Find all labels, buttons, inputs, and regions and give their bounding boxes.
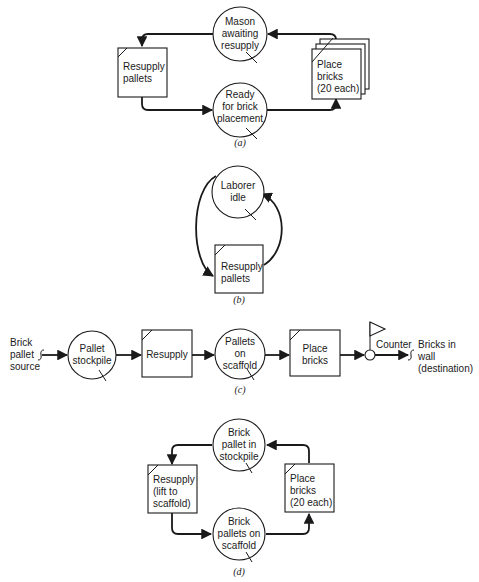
edge-place-to-stockpile: [267, 445, 309, 463]
panel-caption: (d): [233, 566, 245, 578]
node-label-line: Mason: [225, 16, 255, 27]
edge-resupply-to-scaffold: [172, 513, 211, 534]
panel-a: Mason awaiting resupply Ready for brick …: [118, 7, 369, 149]
node-label-line: pallets on: [218, 528, 261, 539]
node-label-line: Place: [290, 473, 315, 484]
node-label-line: Brick: [228, 427, 251, 438]
queue-pallets-on-scaffold: Pallets on scaffold: [215, 329, 265, 380]
node-label-line: bricks: [290, 485, 316, 496]
cyclone-diagram-figure: Mason awaiting resupply Ready for brick …: [0, 0, 479, 582]
node-label-line: Place: [317, 59, 342, 70]
activity-resupply: Resupply: [142, 330, 192, 377]
activity-place-bricks: Place bricks: [290, 330, 340, 376]
panel-caption: (c): [234, 384, 246, 396]
queue-ready-for-brick-placement: Ready for brick placement: [213, 83, 267, 139]
node-label-line: scaffold: [223, 360, 257, 371]
node-label-line: Resupply: [146, 349, 188, 360]
edge-mason-to-resupply: [142, 34, 213, 46]
node-label-line: pallet: [10, 349, 34, 360]
counter-flag-icon: [370, 322, 385, 336]
node-label-line: Resupply: [123, 61, 165, 72]
activity-resupply-pallets: Resupply pallets: [215, 245, 263, 293]
sink-squiggle-icon: [408, 350, 414, 360]
node-label-line: Resupply: [221, 261, 263, 272]
edge-scaffold-to-place: [266, 514, 309, 534]
node-label-line: Counter: [376, 339, 412, 350]
node-label-line: Brick: [228, 516, 251, 527]
node-label-line: (lift to: [153, 486, 178, 497]
panel-d: Brick pallet in stockpile Resupply (lift…: [148, 419, 334, 578]
sink-bricks-in-wall: Bricks in wall (destination): [408, 339, 473, 374]
node-label-line: Ready: [226, 89, 255, 100]
node-label-line: bricks: [302, 355, 328, 366]
node-label-line: scaffold: [222, 540, 256, 551]
node-label-line: resupply: [221, 40, 259, 51]
node-label-line: on: [234, 348, 245, 359]
node-label-line: Pallets: [225, 336, 255, 347]
node-label-line: source: [10, 361, 40, 372]
queue-brick-pallets-on-scaffold: Brick pallets on scaffold: [213, 508, 265, 562]
source-brick-pallet: Brick pallet source: [10, 337, 44, 372]
node-label-line: Place: [302, 343, 327, 354]
node-label-line: Pallet: [79, 343, 104, 354]
node-label-line: Brick: [10, 337, 33, 348]
panel-caption: (b): [233, 294, 245, 306]
node-label-line: (destination): [418, 363, 473, 374]
queue-pallet-stockpile: Pallet stockpile: [68, 331, 116, 381]
node-label-line: pallet in: [222, 439, 256, 450]
activity-place-bricks-stacked: Place bricks (20 each): [312, 38, 369, 99]
edge-ready-to-place: [267, 99, 336, 110]
node-label-line: Bricks in: [418, 339, 456, 350]
node-label-line: placement: [217, 113, 263, 124]
node-label-line: stockpile: [220, 451, 259, 462]
node-label-line: Laborer: [221, 180, 256, 191]
node-label-line: wall: [417, 351, 435, 362]
edge-stockpile-to-resupply: [172, 445, 212, 464]
node-label-line: idle: [230, 192, 246, 203]
panel-c: Brick pallet source Pallet stockpile Res…: [10, 322, 473, 396]
activity-place-bricks: Place bricks (20 each): [285, 464, 334, 512]
panel-b: Laborer idle Resupply pallets (b): [196, 166, 282, 306]
panel-caption: (a): [234, 137, 246, 149]
queue-mason-awaiting-resupply: Mason awaiting resupply: [213, 7, 267, 63]
node-label-line: Resupply: [153, 474, 195, 485]
edge-resupply-to-laborer: [262, 194, 282, 265]
node-label-line: scaffold): [153, 498, 191, 509]
node-label-line: stockpile: [73, 355, 112, 366]
activity-resupply-lift-to-scaffold: Resupply (lift to scaffold): [148, 465, 197, 513]
queue-brick-pallet-in-stockpile: Brick pallet in stockpile: [213, 419, 265, 473]
node-label-line: (20 each): [317, 83, 359, 94]
node-label-line: (20 each): [290, 497, 332, 508]
node-label-line: pallets: [221, 273, 250, 284]
edge-resupply-to-ready: [142, 97, 212, 110]
queue-laborer-idle: Laborer idle: [212, 166, 264, 220]
node-label-line: pallets: [123, 73, 152, 84]
node-label-line: bricks: [317, 71, 343, 82]
activity-resupply-pallets: Resupply pallets: [118, 48, 167, 97]
node-label-line: for brick: [222, 101, 259, 112]
node-label-line: awaiting: [222, 28, 259, 39]
